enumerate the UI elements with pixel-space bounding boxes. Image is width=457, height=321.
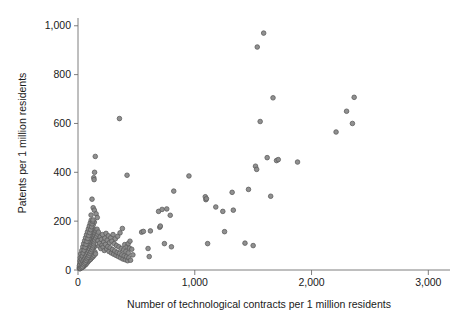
scatter-point — [261, 31, 266, 36]
axis-lines — [78, 18, 450, 270]
scatter-point — [169, 245, 174, 250]
scatter-point — [221, 209, 226, 214]
scatter-point — [258, 119, 263, 124]
scatter-point — [89, 213, 94, 218]
scatter-point — [95, 215, 100, 220]
scatter-point — [213, 205, 218, 210]
scatter-point — [205, 241, 210, 246]
scatter-point — [128, 239, 133, 244]
scatter-point — [125, 173, 130, 178]
scatter-point — [129, 247, 134, 252]
scatter-point — [187, 174, 192, 179]
scatter-points — [77, 31, 357, 271]
scatter-point — [352, 95, 357, 100]
scatter-point — [171, 189, 176, 194]
y-axis-ticks: 02004006008001,000 — [45, 19, 78, 275]
scatter-point — [255, 45, 260, 50]
scatter-point — [271, 96, 276, 101]
scatter-point — [148, 229, 153, 234]
scatter-point — [243, 241, 248, 246]
scatter-point — [147, 254, 152, 259]
scatter-point — [276, 157, 281, 162]
scatter-point — [222, 229, 227, 234]
y-tick-label: 800 — [53, 68, 71, 80]
scatter-point — [93, 154, 98, 159]
x-tick-label: 1,000 — [182, 276, 208, 288]
y-tick-label: 200 — [53, 215, 71, 227]
scatter-point — [117, 116, 122, 121]
scatter-point — [126, 251, 131, 256]
scatter-point — [93, 252, 98, 257]
scatter-point — [162, 241, 167, 246]
scatter-point — [251, 243, 256, 248]
scatter-point — [131, 253, 136, 258]
y-tick-label: 0 — [65, 264, 71, 276]
scatter-point — [344, 109, 349, 114]
scatter-point — [90, 197, 95, 202]
scatter-point — [231, 208, 236, 213]
x-axis-title: Number of technological contracts per 1 … — [127, 298, 391, 310]
scatter-chart-figure: 02004006008001,000 01,0002,0003,000 Pate… — [0, 0, 457, 321]
scatter-point — [334, 130, 339, 135]
scatter-point — [268, 194, 273, 199]
y-axis-title: Patents per 1 million residents — [16, 73, 28, 214]
scatter-point — [168, 213, 173, 218]
x-tick-label: 3,000 — [415, 276, 441, 288]
scatter-point — [91, 218, 96, 223]
y-tick-label: 400 — [53, 166, 71, 178]
scatter-point — [141, 229, 146, 234]
x-axis-ticks: 01,0002,0003,000 — [75, 270, 442, 288]
scatter-point — [164, 207, 169, 212]
x-tick-label: 2,000 — [298, 276, 324, 288]
scatter-point — [92, 177, 97, 182]
scatter-point — [128, 258, 133, 263]
y-tick-label: 1,000 — [45, 19, 71, 31]
scatter-point — [120, 226, 125, 231]
scatter-point — [204, 196, 209, 201]
chart-canvas: 02004006008001,000 01,0002,0003,000 Pate… — [0, 0, 457, 321]
scatter-point — [230, 190, 235, 195]
scatter-point — [246, 187, 251, 192]
scatter-point — [295, 160, 300, 165]
x-tick-label: 0 — [75, 276, 81, 288]
scatter-point — [350, 121, 355, 126]
scatter-point — [265, 155, 270, 160]
scatter-point — [146, 246, 151, 251]
scatter-point — [254, 167, 259, 172]
scatter-point — [158, 224, 163, 229]
scatter-point — [118, 231, 123, 236]
y-tick-label: 600 — [53, 117, 71, 129]
scatter-point — [92, 170, 97, 175]
scatter-point — [160, 207, 165, 212]
